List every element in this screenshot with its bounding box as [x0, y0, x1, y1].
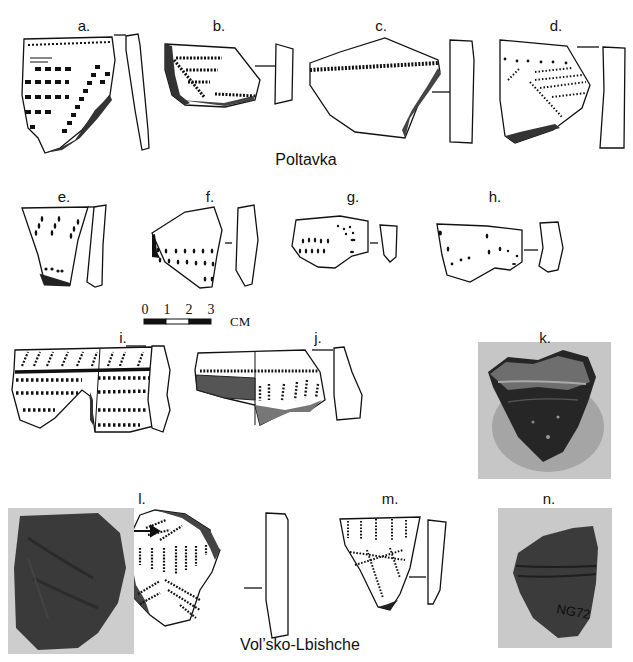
- label-h: h.: [489, 189, 502, 204]
- label-a: a.: [78, 18, 91, 33]
- label-l: l.: [138, 491, 146, 506]
- photo-k: [478, 342, 611, 479]
- scale-bar: [144, 319, 211, 324]
- sherd-a-drawing: [22, 34, 149, 153]
- sherd-d-drawing: [500, 40, 625, 148]
- label-i: i.: [119, 330, 127, 345]
- scale-tick-0: 0: [142, 302, 149, 318]
- sherd-g-drawing: [292, 216, 397, 268]
- label-f: f.: [206, 189, 214, 204]
- group-label-volsko-lbishche: Vol’sko-Lbishche: [240, 636, 360, 654]
- label-j: j.: [314, 330, 322, 345]
- label-e: e.: [58, 189, 71, 204]
- sherd-b-drawing: [165, 44, 293, 107]
- label-n: n.: [543, 491, 556, 506]
- sherd-m-drawing: [340, 517, 446, 610]
- label-m: m.: [382, 491, 399, 506]
- group-label-poltavka: Poltavka: [275, 151, 336, 169]
- sherd-c-drawing: [310, 38, 474, 143]
- label-g: g.: [347, 189, 360, 204]
- sherd-e-drawing: [22, 205, 106, 287]
- sherd-i-drawing: [12, 346, 170, 432]
- label-b: b.: [213, 18, 226, 33]
- sherd-j-drawing: [195, 347, 362, 425]
- scale-unit: CM: [230, 314, 250, 330]
- scale-tick-1: 1: [164, 302, 171, 318]
- sherd-h-drawing: [437, 222, 563, 282]
- photo-l: [8, 508, 134, 654]
- scale-tick-3: 3: [208, 302, 215, 318]
- scale-tick-2: 2: [186, 302, 193, 318]
- sherd-f-drawing: [152, 205, 258, 288]
- label-d: d.: [550, 18, 563, 33]
- label-c: c.: [375, 18, 387, 33]
- label-k: k.: [539, 330, 551, 345]
- photo-n: NG72: [498, 508, 612, 648]
